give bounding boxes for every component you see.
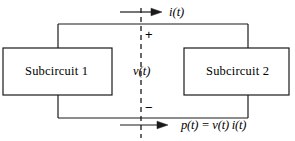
voltage-label: v(t) [133,65,150,78]
bottom-power-arrowhead-icon [157,121,168,129]
current-label: i(t) [169,6,184,19]
subcircuit-2-label: Subcircuit 2 [206,65,269,78]
circuit-diagram: Subcircuit 1 Subcircuit 2 v(t) i(t) p(t)… [0,0,295,141]
power-equation-label: p(t) = v(t) i(t) [181,119,246,132]
polarity-minus-label: − [145,101,153,114]
polarity-plus-label: + [145,28,153,41]
top-current-arrowhead-icon [151,8,162,16]
subcircuit-1-label: Subcircuit 1 [25,65,88,78]
